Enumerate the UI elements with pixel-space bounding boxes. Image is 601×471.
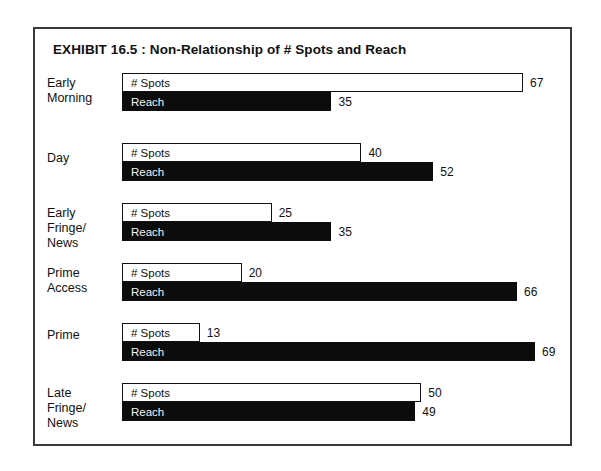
bar-reach[interactable]: Reach xyxy=(122,162,433,181)
bar-series-label: # Spots xyxy=(131,77,170,89)
category-label-line: Fringe/ xyxy=(47,221,125,236)
bar-spots[interactable]: # Spots xyxy=(122,383,421,402)
bar-value-label: 20 xyxy=(249,266,262,280)
bar-series-label: Reach xyxy=(131,166,164,178)
bar-value-label: 52 xyxy=(440,165,453,179)
category-label-line: Morning xyxy=(47,91,125,106)
bar-spots[interactable]: # Spots xyxy=(122,323,200,342)
bar-value-label: 35 xyxy=(338,95,351,109)
bar-reach[interactable]: Reach xyxy=(122,92,331,111)
bar-series-label: # Spots xyxy=(131,327,170,339)
bar-series-label: Reach xyxy=(131,96,164,108)
bar-value-label: 67 xyxy=(530,76,543,90)
exhibit-frame: EXHIBIT 16.5 : Non-Relationship of # Spo… xyxy=(33,27,572,446)
category-label: EarlyFringe/News xyxy=(47,206,125,251)
category-label-line: News xyxy=(47,416,125,431)
bar-value-label: 40 xyxy=(368,146,381,160)
bar-reach[interactable]: Reach xyxy=(122,342,535,361)
category-label: LateFringe/News xyxy=(47,386,125,431)
bar-reach[interactable]: Reach xyxy=(122,222,331,241)
bar-spots[interactable]: # Spots xyxy=(122,143,361,162)
bar-value-label: 50 xyxy=(428,386,441,400)
bar-value-label: 35 xyxy=(338,225,351,239)
category-label: EarlyMorning xyxy=(47,76,125,106)
category-label-line: Late xyxy=(47,386,125,401)
category-label-line: Day xyxy=(47,151,125,166)
category-label-line: News xyxy=(47,236,125,251)
category-label-line: Early xyxy=(47,76,125,91)
bar-spots[interactable]: # Spots xyxy=(122,73,523,92)
category-label-line: Fringe/ xyxy=(47,401,125,416)
bar-value-label: 25 xyxy=(279,206,292,220)
bar-series-label: Reach xyxy=(131,406,164,418)
bar-series-label: # Spots xyxy=(131,207,170,219)
bar-reach[interactable]: Reach xyxy=(122,282,517,301)
bar-value-label: 69 xyxy=(542,345,555,359)
category-label: Prime xyxy=(47,328,125,343)
bar-reach[interactable]: Reach xyxy=(122,402,415,421)
bar-series-label: Reach xyxy=(131,346,164,358)
bar-spots[interactable]: # Spots xyxy=(122,263,242,282)
chart-plot-area: EarlyMorning67# Spots35ReachDay40# Spots… xyxy=(35,29,570,444)
bar-value-label: 49 xyxy=(422,405,435,419)
bar-spots[interactable]: # Spots xyxy=(122,203,272,222)
bar-series-label: # Spots xyxy=(131,267,170,279)
category-label-line: Prime xyxy=(47,328,125,343)
category-label-line: Access xyxy=(47,281,125,296)
category-label: Day xyxy=(47,151,125,166)
category-label: PrimeAccess xyxy=(47,266,125,296)
bar-value-label: 66 xyxy=(524,285,537,299)
bar-value-label: 13 xyxy=(207,326,220,340)
bar-series-label: # Spots xyxy=(131,147,170,159)
category-label-line: Prime xyxy=(47,266,125,281)
bar-series-label: Reach xyxy=(131,226,164,238)
bar-series-label: Reach xyxy=(131,286,164,298)
category-label-line: Early xyxy=(47,206,125,221)
bar-series-label: # Spots xyxy=(131,387,170,399)
